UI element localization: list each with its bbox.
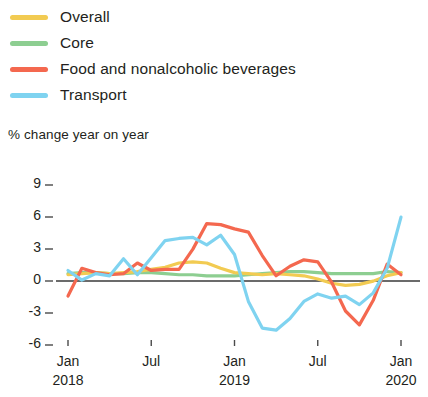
x-tick-label-year: 2018 — [52, 372, 83, 388]
x-axis-ticks: Jan2018JulJan2019JulJan2020 — [52, 340, 416, 388]
x-tick-label-month: Jul — [142, 353, 160, 369]
series-lines — [68, 217, 401, 330]
y-tick-label: 9 — [33, 175, 41, 191]
x-tick-label-month: Jan — [223, 353, 246, 369]
x-tick-label-year: 2020 — [385, 372, 416, 388]
y-tick-label: -6 — [29, 335, 42, 351]
y-tick-label: 0 — [33, 271, 41, 287]
y-axis-ticks: 9630-3-6 — [29, 175, 53, 351]
plot-area: 9630-3-6 Jan2018JulJan2019JulJan2020 — [0, 0, 428, 397]
chart-figure: Overall Core Food and nonalcoholic bever… — [0, 0, 428, 397]
y-tick-label: 3 — [33, 239, 41, 255]
chart-svg: 9630-3-6 Jan2018JulJan2019JulJan2020 — [0, 0, 428, 397]
x-tick-label-month: Jan — [57, 353, 80, 369]
x-tick-label-year: 2019 — [219, 372, 250, 388]
y-tick-label: 6 — [33, 207, 41, 223]
x-tick-label-month: Jul — [309, 353, 327, 369]
x-tick-label-month: Jan — [390, 353, 413, 369]
y-tick-label: -3 — [29, 303, 42, 319]
